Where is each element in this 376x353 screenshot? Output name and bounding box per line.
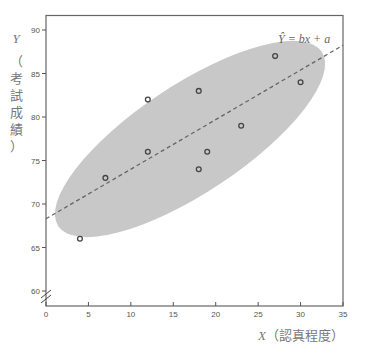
x-axis-label: X（認真程度） — [258, 325, 344, 344]
y-tick-label: 60 — [31, 287, 40, 296]
x-tick-label: 15 — [169, 310, 178, 319]
y-tick-label: 90 — [31, 26, 40, 35]
y-axis-ticks: 60657075808590 — [31, 26, 46, 296]
y-desc-char: （ — [8, 53, 24, 70]
x-tick-label: 25 — [254, 310, 263, 319]
y-tick-label: 65 — [31, 244, 40, 253]
y-desc-char: 考 — [8, 70, 24, 87]
x-tick-label: 5 — [86, 310, 91, 319]
y-variable: Y — [8, 30, 24, 47]
confidence-ellipse — [28, 7, 351, 271]
x-tick-label: 35 — [339, 310, 348, 319]
y-desc-char: 試 — [8, 87, 24, 104]
regression-equation: Ŷ = bx + a — [278, 32, 330, 46]
y-tick-label: 70 — [31, 200, 40, 209]
x-variable: X — [258, 328, 266, 343]
x-tick-label: 0 — [44, 310, 49, 319]
y-tick-label: 85 — [31, 70, 40, 79]
x-axis-ticks: 05101520253035 — [44, 302, 348, 319]
data-point — [78, 236, 83, 241]
x-tick-label: 10 — [126, 310, 135, 319]
scatter-plot: 60657075808590 05101520253035 Ŷ = bx + a — [0, 0, 376, 353]
x-desc: （認真程度） — [266, 328, 344, 343]
y-tick-label: 80 — [31, 113, 40, 122]
x-tick-label: 20 — [211, 310, 220, 319]
y-desc-char: ） — [8, 138, 24, 155]
x-tick-label: 30 — [296, 310, 305, 319]
data-point — [145, 97, 150, 102]
y-desc-char: 績 — [8, 121, 24, 138]
y-desc-char: 成 — [8, 104, 24, 121]
y-axis-label: Y （ 考 試 成 績 ） — [8, 30, 24, 155]
y-tick-label: 75 — [31, 157, 40, 166]
